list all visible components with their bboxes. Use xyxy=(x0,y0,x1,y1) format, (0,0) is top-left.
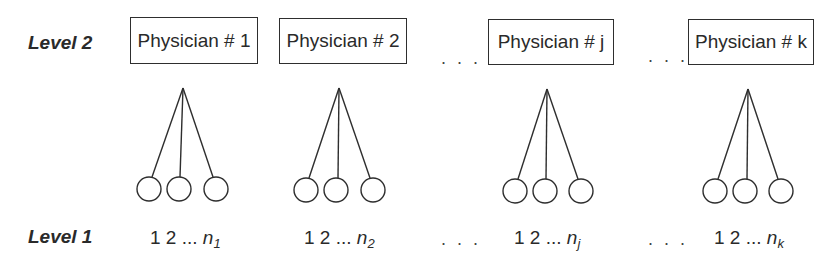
units-subscript: k xyxy=(777,236,784,251)
tree-physician-k xyxy=(703,89,793,203)
units-subscript: 1 xyxy=(213,236,220,251)
tree-physician-2 xyxy=(294,88,385,202)
units-n: n xyxy=(357,227,368,248)
patient-node xyxy=(137,177,161,201)
tree-connectors xyxy=(0,0,835,267)
units-subscript: 2 xyxy=(367,236,374,251)
units-label-1: 1 2 ... n1 xyxy=(150,227,221,251)
ellipsis-bottom-1: . . . xyxy=(441,229,481,250)
patient-node xyxy=(703,179,727,203)
units-prefix: 1 2 ... xyxy=(714,227,767,248)
units-prefix: 1 2 ... xyxy=(514,227,567,248)
patient-node xyxy=(204,177,228,201)
patient-node xyxy=(361,178,385,202)
units-prefix: 1 2 ... xyxy=(150,227,203,248)
units-label-j: 1 2 ... nj xyxy=(514,227,580,251)
units-label-2: 1 2 ... n2 xyxy=(304,227,375,251)
patient-node xyxy=(769,179,793,203)
patient-node xyxy=(533,179,557,203)
tree-physician-1 xyxy=(137,88,228,201)
patient-node xyxy=(733,179,757,203)
patient-node xyxy=(167,177,191,201)
units-prefix: 1 2 ... xyxy=(304,227,357,248)
units-n: n xyxy=(203,227,214,248)
patient-node xyxy=(294,178,318,202)
units-n: n xyxy=(567,227,578,248)
ellipsis-bottom-2: . . . xyxy=(648,229,688,250)
units-n: n xyxy=(767,227,778,248)
units-subscript: j xyxy=(577,236,580,251)
patient-node xyxy=(324,178,348,202)
units-label-k: 1 2 ... nk xyxy=(714,227,784,251)
patient-node xyxy=(503,179,527,203)
patient-node xyxy=(569,179,593,203)
tree-physician-j xyxy=(503,89,593,203)
